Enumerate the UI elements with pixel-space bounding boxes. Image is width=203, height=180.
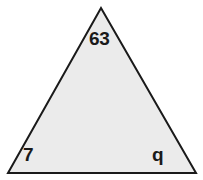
triangle-diagram: 63 7 q bbox=[0, 0, 203, 180]
bottom-left-angle-label: 7 bbox=[23, 145, 33, 164]
apex-angle-label: 63 bbox=[89, 29, 110, 48]
bottom-right-angle-label: q bbox=[152, 145, 163, 164]
